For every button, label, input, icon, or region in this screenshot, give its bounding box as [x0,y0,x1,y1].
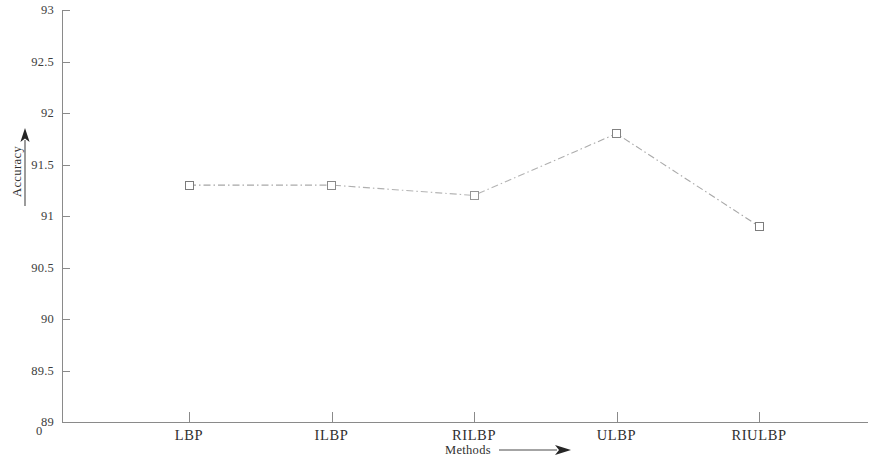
plot-area: 9392.59291.59190.59089.589 LBPILBPRILBPU… [0,0,876,459]
data-point-marker [612,129,621,138]
data-point-marker [327,181,336,190]
data-point-marker [470,191,479,200]
x-axis-title-group: Methods [445,441,571,459]
x-axis-title: Methods [445,443,491,458]
right-arrow-icon [499,444,571,456]
y-axis-title-group: Accuracy [0,120,34,250]
data-point-marker [755,222,764,231]
accuracy-vs-methods-line-chart: 9392.59291.59190.59089.589 LBPILBPRILBPU… [0,0,876,459]
y-axis-title: Accuracy [10,122,25,222]
series-line [0,0,876,459]
origin-zero-label: 0 [36,424,42,439]
data-point-marker [185,181,194,190]
